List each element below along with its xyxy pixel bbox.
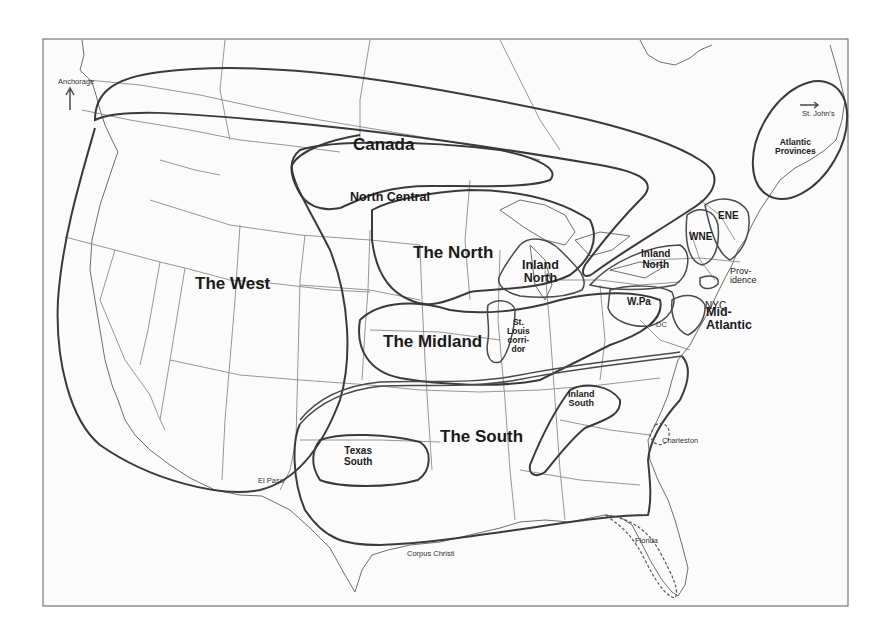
label-the-north: The North	[413, 244, 493, 262]
map-graphic	[0, 0, 891, 642]
label-florida: Florida	[635, 537, 658, 545]
label-corpus-christi: Corpus Christi	[407, 550, 455, 558]
label-north-central: North Central	[350, 191, 430, 204]
label-mid-atlantic: Mid- Atlantic	[706, 306, 752, 332]
label-el-paso: El Paso	[258, 477, 284, 485]
label-wne: WNE	[689, 232, 712, 243]
label-atlantic-provinces: Atlantic Provinces	[775, 138, 816, 156]
label-inland-north-east: Inland North	[641, 249, 670, 270]
label-st-johns: St. John's	[802, 110, 835, 118]
label-anchorage: Anchorage	[58, 78, 94, 86]
label-the-south: The South	[440, 428, 523, 446]
label-inland-north-west: Inland North	[522, 259, 559, 285]
label-dc: DC	[656, 321, 667, 329]
label-the-midland: The Midland	[383, 333, 482, 351]
label-charleston: Charleston	[662, 437, 698, 445]
label-inland-south: Inland South	[568, 390, 595, 409]
label-w-pa: W.Pa	[627, 297, 651, 308]
label-canada: Canada	[353, 136, 414, 154]
label-texas-south: Texas South	[344, 446, 372, 467]
label-providence: Prov- idence	[730, 267, 757, 286]
dialect-map: Canada North Central The West The North …	[0, 0, 891, 642]
label-ene: ENE	[718, 211, 739, 222]
label-st-louis-corridor: St. Louis corri- dor	[507, 318, 530, 354]
label-the-west: The West	[195, 275, 270, 293]
